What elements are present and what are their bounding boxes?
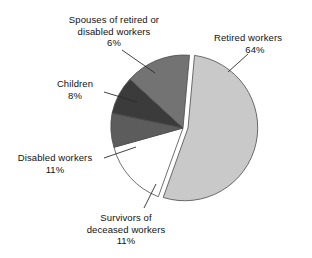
label-spouses-line1: Spouses of retired or: [69, 14, 159, 25]
label-children-line1: Children: [57, 78, 93, 89]
label-retired-workers: Retired workers 64%: [214, 32, 310, 55]
leader-line-retired: [228, 54, 248, 72]
label-retired-line1: Retired workers: [214, 32, 282, 43]
label-disabled-percent: 11%: [6, 164, 104, 176]
label-disabled-workers: Disabled workers 11%: [6, 152, 104, 175]
label-survivors-percent: 11%: [66, 235, 186, 247]
label-children-percent: 8%: [44, 90, 106, 102]
label-spouses-line2: disabled workers: [78, 26, 151, 37]
leader-line-spouses: [122, 50, 155, 73]
label-survivors-of-deceased-workers: Survivors of deceased workers 11%: [66, 212, 186, 247]
label-spouses-of-retired-or-disabled-workers: Spouses of retired or disabled workers 6…: [52, 14, 176, 49]
label-survivors-line2: deceased workers: [87, 224, 166, 235]
label-spouses-percent: 6%: [52, 37, 176, 49]
label-disabled-line1: Disabled workers: [18, 152, 92, 163]
label-survivors-line1: Survivors of: [100, 212, 151, 223]
label-children: Children 8%: [44, 78, 106, 101]
label-retired-percent: 64%: [214, 44, 296, 56]
pie-chart: Spouses of retired or disabled workers 6…: [0, 0, 312, 258]
